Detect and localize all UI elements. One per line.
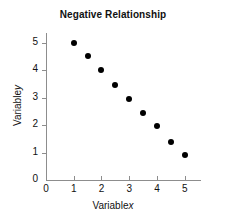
- y-axis-label-symbol: y: [12, 85, 23, 90]
- y-axis-tick-label: 0: [22, 173, 38, 184]
- x-axis-tick-label: 0: [36, 183, 56, 194]
- x-axis-tick-label: 1: [64, 183, 84, 194]
- y-axis-tick-label: 5: [22, 36, 38, 47]
- data-point: [98, 67, 104, 73]
- data-point: [182, 152, 188, 158]
- x-axis-tick-label: 3: [119, 183, 139, 194]
- y-axis-tick-label: 3: [22, 91, 38, 102]
- data-point: [71, 40, 77, 46]
- chart-title: Negative Relationship: [0, 9, 226, 20]
- x-axis-line: [46, 180, 201, 181]
- x-axis-tick-label: 4: [147, 183, 167, 194]
- x-axis-label: Variablex: [0, 200, 226, 211]
- x-axis-label-text: Variable: [93, 200, 129, 211]
- data-point: [112, 82, 118, 88]
- data-point: [126, 96, 132, 102]
- y-axis-tick-label: 4: [22, 63, 38, 74]
- scatter-plot-figure: Negative Relationship 012345012345 Varia…: [0, 0, 226, 223]
- x-axis-tick-label: 5: [175, 183, 195, 194]
- y-axis-label-text: Variable: [12, 90, 23, 126]
- y-axis-tick-label: 2: [22, 118, 38, 129]
- plot-area: [46, 33, 200, 180]
- data-point: [140, 110, 146, 116]
- data-point: [154, 123, 160, 129]
- y-axis-label: Variabley: [12, 46, 23, 166]
- x-axis-tick-label: 2: [91, 183, 111, 194]
- y-axis-tick-label: 1: [22, 146, 38, 157]
- data-point: [85, 53, 91, 59]
- x-axis-label-symbol: x: [128, 200, 133, 211]
- data-point: [168, 139, 174, 145]
